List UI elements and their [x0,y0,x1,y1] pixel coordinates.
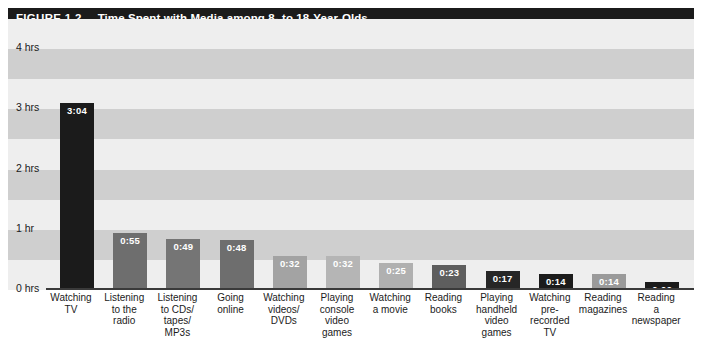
bar: 3:04 [60,103,94,288]
y-axis-tick-label: 2 hrs [16,162,39,174]
bar: 0:17 [486,271,520,288]
x-axis-category-label: Readingmagazines [576,292,630,315]
bar-series: 3:040:550:490:480:320:320:250:230:170:14… [54,32,694,288]
x-axis-category-label: Watchingpre-recordedTV [523,292,577,338]
bar: 0:49 [166,239,200,288]
bar-value-label: 0:55 [120,236,140,288]
y-axis-tick-label: 1 hr [16,222,34,234]
bar-value-label: 0:32 [280,259,300,288]
bar: 0:48 [220,240,254,288]
bar-value-label: 3:04 [67,106,87,288]
bar-value-label: 0:49 [173,242,193,288]
bar-value-label: 0:14 [546,277,566,288]
y-axis-tick-label: 4 hrs [16,41,39,53]
chart-plot-area: 0 hrs1 hr2 hrs3 hrs4 hrs 3:040:550:490:4… [8,32,694,290]
x-axis-category-label: Playinghandheldvideogames [470,292,524,338]
bar: 0:14 [592,274,626,288]
bar-value-label: 0:32 [333,259,353,288]
y-axis-labels: 0 hrs1 hr2 hrs3 hrs4 hrs [8,32,54,290]
bar: 0:32 [326,256,360,288]
figure-container: FIGURE 1.2 Time Spent with Media among 8… [0,0,702,355]
x-axis-category-label: Listeningto theradio [97,292,151,327]
bar-value-label: 0:48 [227,243,247,288]
x-axis-category-label: Watchingvideos/DVDs [257,292,311,327]
bar-value-label: 0:17 [493,274,513,288]
bar-value-label: 0:23 [439,268,459,288]
bar: 0:23 [432,265,466,288]
bar: 0:25 [379,263,413,288]
x-axis-category-label: Listeningto CDs/tapes/MP3s [150,292,204,338]
x-axis-category-label: WatchingTV [44,292,98,315]
bar: 0:55 [113,233,147,288]
bar-value-label: 0:25 [386,266,406,288]
x-axis-line [46,288,694,290]
bar-value-label: 0:14 [599,277,619,288]
x-axis-category-label: Readinganewspaper [629,292,683,327]
bar: 0:32 [273,256,307,288]
x-axis-category-label: Goingonline [204,292,258,315]
y-axis-tick-label: 3 hrs [16,101,39,113]
x-axis-category-label: Watchinga movie [363,292,417,315]
x-axis-category-labels: WatchingTVListeningto theradioListeningt… [54,292,694,352]
bar: 0:14 [539,274,573,288]
x-axis-category-label: Readingbooks [416,292,470,315]
y-axis-tick-label: 0 hrs [16,282,39,294]
x-axis-category-label: Playingconsolevideogames [310,292,364,338]
